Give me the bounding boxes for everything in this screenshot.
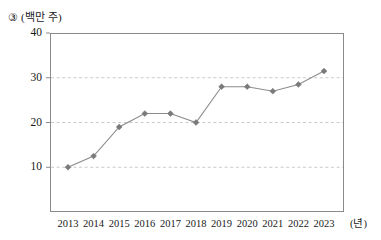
data-point-marker — [244, 84, 250, 90]
y-tick-label: 30 — [2, 72, 42, 84]
data-point-markers — [65, 68, 327, 170]
data-point-marker — [296, 82, 302, 88]
x-tick-label: 2023 — [304, 218, 344, 230]
data-point-marker — [321, 68, 327, 74]
data-point-marker — [168, 111, 174, 117]
y-tick-label: 10 — [2, 161, 42, 173]
data-series-line — [68, 71, 324, 167]
data-point-marker — [142, 111, 148, 117]
y-axis-tick-marks — [46, 33, 50, 167]
line-chart-canvas — [0, 0, 381, 240]
data-point-marker — [65, 164, 71, 170]
y-tick-label: 40 — [2, 27, 42, 39]
x-axis-unit-label: (년) — [350, 217, 367, 230]
x-axis-tick-labels: 2013201420152016201720182019202020212022… — [50, 218, 344, 234]
chart-figure: ③(백만 주) 10203040 20132014201520162017201… — [0, 0, 381, 240]
data-point-marker — [270, 88, 276, 94]
y-tick-label: 20 — [2, 117, 42, 129]
